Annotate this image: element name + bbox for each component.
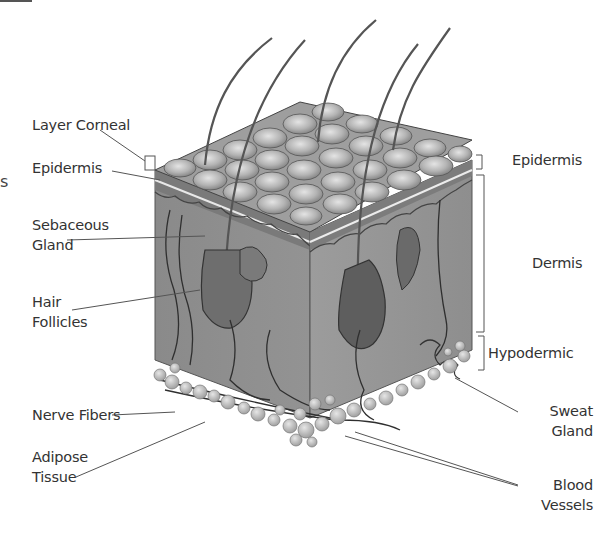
skin-illustration xyxy=(0,0,605,538)
label-line-1: Sweat xyxy=(549,401,593,421)
label-hypodermic: Hypodermic xyxy=(488,343,574,363)
label-line-1: Blood xyxy=(541,475,593,495)
label-line-2: Gland xyxy=(32,235,109,255)
label-line-2: Vessels xyxy=(541,495,593,515)
label-nerve-fibers: Nerve Fibers xyxy=(32,405,120,425)
label-line-1: Adipose xyxy=(32,447,88,467)
label-sweat-gland: Sweat Gland xyxy=(549,401,593,441)
label-epidermis-right: Epidermis xyxy=(512,150,582,170)
label-blood-vessels: Blood Vessels xyxy=(541,475,593,515)
label-line-1: Hair xyxy=(32,292,87,312)
label-adipose-tissue: Adipose Tissue xyxy=(32,447,88,487)
label-epidermis-left: Epidermis xyxy=(32,158,102,178)
label-layer-corneal: Layer Corneal xyxy=(32,115,130,135)
label-line-2: Follicles xyxy=(32,312,87,332)
label-line-2: Gland xyxy=(549,421,593,441)
label-dermis: Dermis xyxy=(532,253,582,273)
label-line-2: Tissue xyxy=(32,467,88,487)
label-line-1: Sebaceous xyxy=(32,215,109,235)
label-hair-follicles: Hair Follicles xyxy=(32,292,87,332)
label-sebaceous-gland: Sebaceous Gland xyxy=(32,215,109,255)
